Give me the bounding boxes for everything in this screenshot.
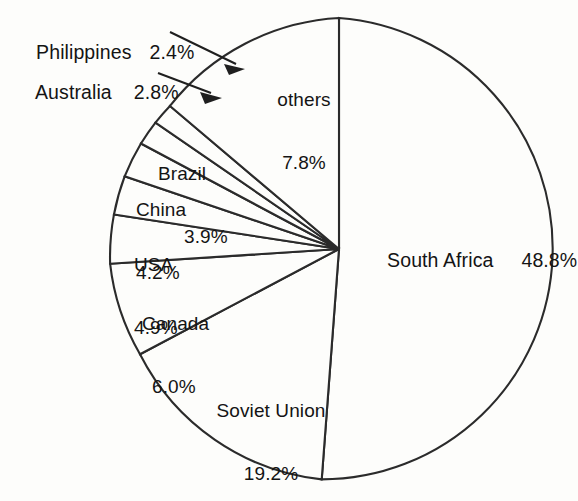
label-canada-name: Canada (142, 313, 272, 334)
label-south-africa: South Africa48.8% (365, 228, 577, 293)
label-soviet-name: Soviet Union (196, 400, 346, 421)
label-soviet-union: Soviet Union 19.2% (196, 357, 346, 501)
label-australia-pct: 2.8% (134, 81, 179, 103)
label-australia: Australia2.8% (14, 60, 179, 125)
label-australia-name: Australia (35, 81, 112, 103)
label-others-name: others (258, 89, 350, 110)
label-south-africa-pct: 48.8% (521, 249, 577, 271)
pie-chart: Philippines2.4% Australia2.8% others 7.8… (0, 0, 578, 501)
label-south-africa-name: South Africa (387, 249, 493, 271)
label-soviet-pct: 19.2% (196, 463, 346, 484)
